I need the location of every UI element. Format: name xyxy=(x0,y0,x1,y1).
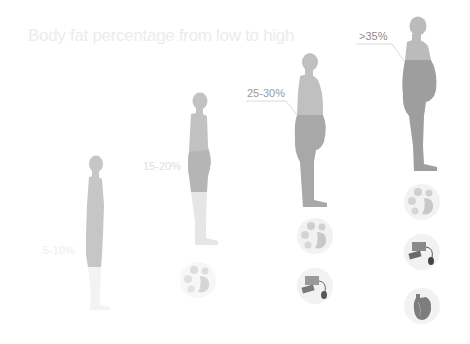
leader-line-high xyxy=(246,100,306,120)
blood-pressure-monitor-icon xyxy=(404,234,440,270)
label-high: 25-30% xyxy=(247,87,285,99)
digestive-organs-icon xyxy=(180,262,216,298)
label-low: 5-10% xyxy=(43,244,75,256)
label-obese: >35% xyxy=(359,30,387,42)
figure-low xyxy=(82,155,122,313)
label-moderate: 15-20% xyxy=(143,160,181,172)
page-title: Body fat percentage from low to high xyxy=(28,26,294,46)
digestive-organs-icon xyxy=(404,184,440,220)
figure-obese xyxy=(402,16,452,176)
digestive-organs-icon xyxy=(297,218,333,254)
leader-line-obese xyxy=(356,43,411,63)
figure-high xyxy=(294,52,344,212)
blood-pressure-monitor-icon xyxy=(297,268,333,304)
figure-moderate xyxy=(186,92,226,252)
heart-icon xyxy=(404,288,440,324)
